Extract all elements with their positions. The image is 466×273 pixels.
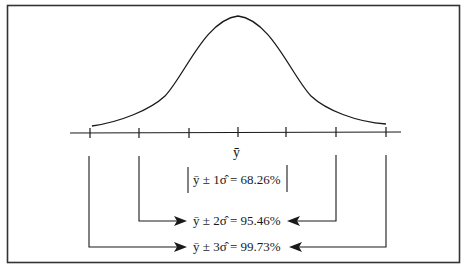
interval-2sigma-label: ȳ ± 2σ̂ = 95.46% <box>193 214 281 228</box>
bell-curve <box>92 16 386 126</box>
x-axis <box>70 132 401 133</box>
two-sigma-bracket <box>139 155 336 221</box>
three-sigma-bracket <box>89 155 386 247</box>
normal-distribution-figure <box>0 0 466 273</box>
interval-3sigma-label: ȳ ± 3σ̂ = 99.73% <box>193 240 281 254</box>
interval-1sigma-label: ȳ ± 1σ̂ = 68.26% <box>193 173 281 187</box>
mean-label: ȳ <box>233 145 240 161</box>
